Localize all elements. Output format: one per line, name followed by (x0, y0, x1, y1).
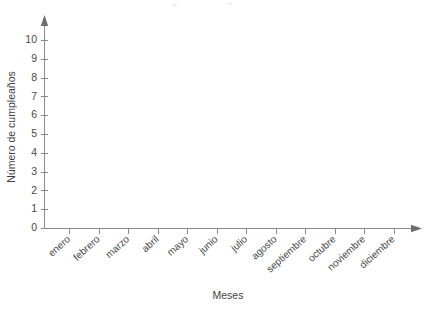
y-tick-label: 1 (31, 202, 37, 214)
y-axis-title: Número de cumpleaños (5, 71, 17, 182)
x-tick-label: marzo (103, 233, 131, 260)
y-tick-label: 2 (31, 184, 37, 196)
chart-container: 0 1 2 3 4 5 6 7 8 9 10 (0, 0, 436, 311)
y-tick-label: 8 (31, 71, 37, 83)
x-axis-ticks (70, 229, 395, 235)
x-tick-label: mayo (165, 233, 191, 258)
plot-area (45, 30, 418, 228)
y-tick-label: 7 (31, 90, 37, 102)
x-tick-label: enero (46, 233, 73, 259)
y-tick-label: 0 (31, 221, 37, 233)
x-tick-label: febrero (71, 233, 102, 263)
x-tick-label: julio (228, 233, 250, 254)
birthday-bar-chart-axes: 0 1 2 3 4 5 6 7 8 9 10 (0, 0, 436, 311)
y-tick-label: 10 (25, 33, 37, 45)
y-tick-label: 9 (31, 52, 37, 64)
y-tick-label: 4 (31, 146, 37, 158)
y-axis-arrowhead-icon (41, 15, 48, 26)
x-tick-label: junio (196, 233, 220, 256)
y-axis-tick-labels: 0 1 2 3 4 5 6 7 8 9 10 (25, 33, 37, 233)
x-axis-tick-labels: enero febrero marzo abril mayo junio jul… (46, 233, 397, 275)
y-tick-label: 6 (31, 108, 37, 120)
y-tick-label: 3 (31, 165, 37, 177)
x-tick-label: abril (139, 233, 160, 254)
x-axis-title: Meses (213, 289, 244, 301)
y-tick-label: 5 (31, 127, 37, 139)
